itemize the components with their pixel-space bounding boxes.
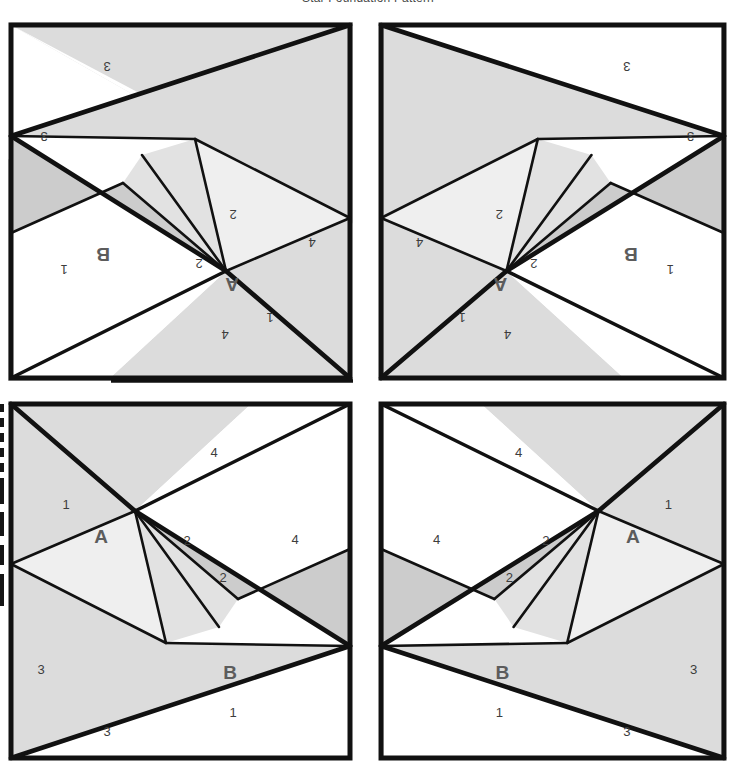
label-b-piece-1: 1: [229, 705, 236, 720]
label-piece-3-upper: 3: [623, 59, 630, 74]
label-piece-4-right: 4: [291, 532, 298, 547]
panel-top-right[interactable]: 3 3 1 2 2 4 4 1 A B: [376, 20, 729, 383]
scan-artifact: [0, 574, 4, 606]
label-piece-2-upper: 2: [183, 533, 190, 548]
label-piece-4-bottom: 4: [504, 327, 511, 342]
label-piece-2-upper: 2: [496, 207, 503, 222]
label-b-piece-1: 1: [60, 262, 67, 277]
block-diagram-bottom-left: 4 1 2 2 4 3 3 1 A B: [6, 399, 355, 763]
block-diagram-top-right: 3 3 1 2 2 4 4 1 A B: [376, 20, 729, 383]
label-unit-b: B: [495, 662, 509, 683]
scan-artifact: [0, 418, 4, 427]
label-piece-3-lower: 3: [687, 129, 694, 144]
scan-artifact: [0, 404, 4, 412]
label-piece-3-upper: 3: [103, 59, 110, 74]
label-a-piece-1: 1: [266, 310, 273, 325]
label-unit-a: A: [626, 526, 640, 547]
label-piece-4-right: 4: [416, 235, 423, 250]
pattern-sheet: Star Foundation Pattern: [0, 0, 736, 763]
label-a-piece-1: 1: [458, 310, 465, 325]
label-piece-3-lower: 3: [40, 129, 47, 144]
panel-top-left[interactable]: 3 3 1 2 2 4 4 1 A B: [6, 20, 355, 383]
label-piece-2-lower: 2: [195, 256, 202, 271]
label-unit-a: A: [94, 526, 108, 547]
label-piece-4-bottom: 4: [221, 327, 228, 342]
label-b-piece-1: 1: [496, 705, 503, 720]
scan-artifact: [0, 545, 4, 565]
scan-artifact: [0, 478, 4, 504]
label-a-piece-1: 1: [62, 497, 69, 512]
scan-artifact: [0, 433, 4, 442]
label-piece-4-right: 4: [433, 532, 440, 547]
panel-bottom-left[interactable]: 4 1 2 2 4 3 3 1 A B: [6, 399, 355, 763]
label-piece-2-lower: 2: [219, 570, 226, 585]
label-piece-2-lower: 2: [506, 570, 513, 585]
label-piece-4-right: 4: [308, 235, 315, 250]
scan-artifact: [0, 448, 4, 457]
label-b-piece-1: 1: [667, 262, 674, 277]
block-lines-top-left: 3 3 1 2 2 4 4 1 A B: [6, 20, 355, 383]
label-piece-4-bottom: 4: [210, 445, 217, 460]
label-unit-b: B: [624, 244, 638, 265]
label-piece-4-bottom: 4: [515, 445, 522, 460]
label-piece-2-upper: 2: [542, 533, 549, 548]
label-unit-a: A: [225, 274, 239, 295]
scan-artifact: [0, 463, 4, 472]
panel-bottom-right[interactable]: 4 1 2 2 4 3 3 1 A B: [376, 399, 729, 763]
page-title: Star Foundation Pattern: [0, 0, 736, 5]
label-piece-3-upper: 3: [690, 662, 697, 677]
label-piece-2-upper: 2: [229, 207, 236, 222]
label-unit-a: A: [493, 274, 507, 295]
label-piece-3-upper: 3: [37, 662, 44, 677]
label-a-piece-1: 1: [665, 497, 672, 512]
label-piece-3-lower: 3: [623, 724, 630, 739]
label-piece-3-lower: 3: [103, 724, 110, 739]
block-diagram-bottom-right: 4 1 2 2 4 3 3 1 A B: [376, 399, 729, 763]
label-unit-b: B: [223, 662, 237, 683]
scan-artifact: [0, 512, 4, 536]
label-piece-2-lower: 2: [530, 256, 537, 271]
label-unit-b: B: [96, 244, 110, 265]
